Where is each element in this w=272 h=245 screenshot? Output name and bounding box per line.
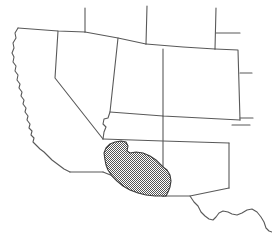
california-nevada-border: [55, 31, 103, 139]
wyoming-colorado-border: [110, 112, 240, 120]
map-canvas: [0, 0, 272, 245]
wyoming-north-border: [146, 44, 215, 49]
distribution-range-shaded-area: [104, 141, 171, 196]
newmexico-mexico-border: [163, 188, 229, 196]
idaho-montana-border: [146, 6, 147, 44]
wyoming-montana-east-border: [215, 8, 216, 49]
range-map-figure: [0, 0, 272, 245]
wyoming-east-border: [215, 49, 240, 120]
california-oregon-border: [18, 28, 85, 32]
nevada-utah-border: [103, 38, 118, 139]
oregon-nevada-utah-north-border: [85, 32, 146, 44]
pacific-coastline: [12, 28, 70, 172]
rio-grande: [190, 196, 272, 232]
